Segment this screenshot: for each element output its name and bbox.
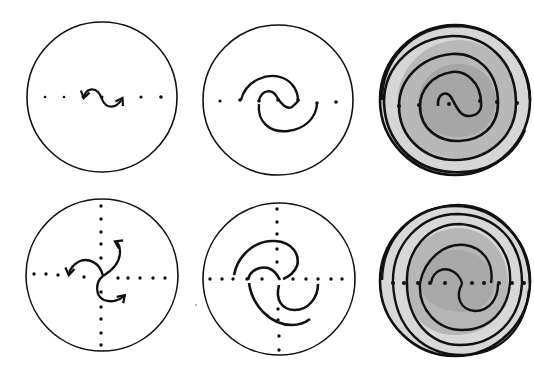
panel-bottom-middle: [203, 203, 355, 355]
panel-top-left: [27, 22, 177, 172]
stray-dot: [195, 304, 197, 306]
panel-bottom-right: [380, 205, 530, 356]
panel-top-right: [380, 25, 530, 175]
spiral-diagram-figure: [0, 0, 534, 382]
panel-top-middle: [203, 25, 353, 175]
panel-bottom-left: [26, 199, 178, 351]
